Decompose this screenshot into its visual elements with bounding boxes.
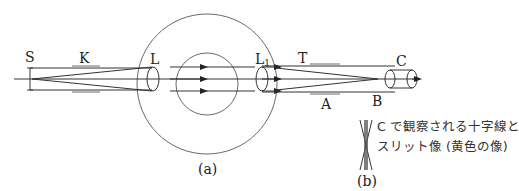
label-K: K <box>79 50 90 66</box>
label-fig-b: (b) <box>357 173 377 189</box>
crosshair-slit-image <box>360 120 372 170</box>
label-fig-a: (a) <box>198 161 217 177</box>
label-S: S <box>25 49 35 65</box>
label-C: C <box>396 53 407 69</box>
label-T: T <box>298 50 308 66</box>
label-A: A <box>320 96 332 112</box>
caption-b-line2: スリット像 (黄色の像) <box>377 139 508 154</box>
prism-stage-circle <box>176 53 238 115</box>
label-L: L <box>150 51 159 67</box>
label-L1: L1 <box>255 51 270 68</box>
caption-b-line1: C で観察される十字線と <box>377 119 519 134</box>
label-B: B <box>372 93 382 109</box>
spectrometer-diagram: S K L L1 T C A B (a) (b) C で観察される十字線と スリ… <box>0 0 519 191</box>
